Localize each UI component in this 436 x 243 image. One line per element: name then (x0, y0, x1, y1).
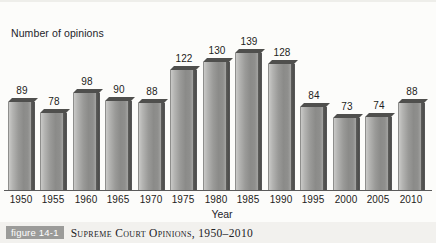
bar-front-face (398, 103, 421, 190)
bar-front-face (73, 93, 96, 190)
x-tick-1955: 1955 (37, 194, 69, 205)
x-tick-1965: 1965 (102, 194, 134, 205)
bar-side-face (323, 107, 327, 190)
bar-front-face (203, 62, 226, 190)
bar-1985 (235, 49, 257, 190)
bar-value-label: 90 (106, 84, 132, 95)
bar-side-face (258, 53, 262, 190)
bar-front-face (365, 117, 388, 190)
x-tick-1960: 1960 (70, 194, 102, 205)
bar-side-face (128, 101, 132, 190)
bar-side-face (356, 118, 360, 190)
bar-top-face (40, 109, 70, 113)
bar-1980 (203, 58, 225, 190)
bar-top-face (300, 103, 330, 107)
bar-value-label: 74 (366, 100, 392, 111)
bar-1970 (138, 99, 160, 190)
x-tick-1985: 1985 (232, 194, 264, 205)
bar-1950 (8, 98, 30, 190)
bar-front-face (300, 107, 323, 190)
bar-front-face (40, 113, 63, 190)
bar-side-face (96, 93, 100, 190)
bar-top-face (203, 58, 233, 62)
bar-1955 (40, 109, 62, 190)
bar-value-label: 78 (41, 96, 67, 107)
bar-value-label: 88 (399, 86, 425, 97)
bar-1995 (300, 103, 322, 190)
bar-2000 (333, 114, 355, 190)
x-axis-line (4, 190, 432, 191)
bar-2010 (398, 99, 420, 190)
bar-top-face (365, 113, 395, 117)
x-tick-1970: 1970 (135, 194, 167, 205)
bar-top-face (8, 98, 38, 102)
bar-front-face (8, 102, 31, 190)
figure-number-badge: figure 14-1 (6, 226, 64, 240)
bar-front-face (170, 70, 193, 190)
x-tick-2010: 2010 (395, 194, 427, 205)
bar-side-face (421, 103, 425, 190)
x-tick-1980: 1980 (200, 194, 232, 205)
bar-side-face (63, 113, 67, 190)
bar-side-face (226, 62, 230, 190)
x-tick-1995: 1995 (297, 194, 329, 205)
x-tick-1990: 1990 (265, 194, 297, 205)
x-tick-1975: 1975 (167, 194, 199, 205)
figure-supreme-court-opinions: Number of opinions Year 8919507819559819… (0, 0, 436, 243)
bar-top-face (170, 66, 200, 70)
bar-2005 (365, 113, 387, 190)
bar-front-face (268, 64, 291, 190)
x-tick-2005: 2005 (362, 194, 394, 205)
x-axis-title: Year (192, 208, 252, 220)
bar-value-label: 89 (9, 85, 35, 96)
bar-side-face (31, 102, 35, 190)
bar-front-face (333, 118, 356, 190)
bar-value-label: 73 (334, 101, 360, 112)
bar-side-face (291, 64, 295, 190)
bar-front-face (105, 101, 128, 190)
x-tick-1950: 1950 (5, 194, 37, 205)
bar-value-label: 139 (236, 36, 262, 47)
bar-top-face (235, 49, 265, 53)
bar-top-face (73, 89, 103, 93)
bar-top-face (268, 60, 298, 64)
bar-1965 (105, 97, 127, 190)
bar-top-face (398, 99, 428, 103)
bar-side-face (388, 117, 392, 190)
bar-front-face (138, 103, 161, 190)
bar-top-face (138, 99, 168, 103)
bar-1990 (268, 60, 290, 190)
bar-front-face (235, 53, 258, 190)
bar-side-face (193, 70, 197, 190)
bar-top-face (333, 114, 363, 118)
bar-value-label: 98 (74, 76, 100, 87)
bar-value-label: 84 (301, 90, 327, 101)
bar-side-face (161, 103, 165, 190)
bar-1975 (170, 66, 192, 190)
bar-top-face (105, 97, 135, 101)
x-tick-2000: 2000 (330, 194, 362, 205)
bar-value-label: 122 (171, 53, 197, 64)
bar-value-label: 128 (269, 47, 295, 58)
chart-plot-area: Number of opinions Year 8919507819559819… (0, 0, 436, 192)
bar-value-label: 88 (139, 86, 165, 97)
figure-caption-text: Supreme Court Opinions, 1950–2010 (71, 227, 253, 239)
bar-1960 (73, 89, 95, 190)
figure-caption-bar: figure 14-1 Supreme Court Opinions, 1950… (0, 222, 436, 243)
bar-value-label: 130 (204, 45, 230, 56)
